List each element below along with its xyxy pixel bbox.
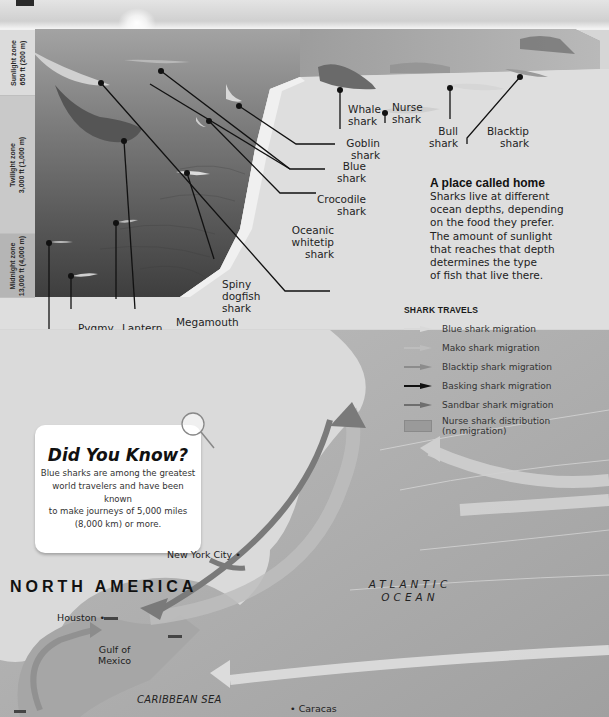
intro-title: A place called home [430, 176, 605, 190]
label-crocodile-shark: Crocodileshark [316, 193, 366, 217]
sky-band [0, 0, 609, 30]
intro-text-block: A place called home Sharks live at diffe… [430, 176, 605, 282]
magnifying-glass-icon [178, 410, 218, 450]
intro-body: Sharks live at different ocean depths, d… [430, 190, 605, 282]
zone-name: Twilight zone [10, 143, 17, 187]
legend-item-basking: Basking shark migration [404, 376, 604, 395]
arrow-icon [404, 400, 432, 410]
city-new-york: New York City • [167, 549, 241, 560]
label-atlantic-ocean: ATLANTICOCEAN [360, 578, 460, 604]
label-whale-shark: Whaleshark [348, 103, 381, 127]
depth-zones-bar: Sunlight zone650 ft (200 m) Twilight zon… [0, 0, 35, 328]
label-caribbean-sea: CARIBBEAN SEA [137, 694, 222, 705]
arrow-icon [404, 381, 432, 391]
arrow-icon [404, 324, 432, 334]
label-goblin-shark: Goblinshark [338, 137, 380, 161]
zone-depth: 650 ft (200 m) [19, 40, 26, 85]
did-you-know-title: Did You Know? [35, 445, 201, 465]
zone-name: Sunlight zone [10, 40, 17, 86]
city-caracas: • Caracas [290, 703, 337, 714]
legend-item-blue: Blue shark migration [404, 319, 604, 338]
zone-midnight: Midnight zone13,000 ft (4,000 m) [0, 234, 35, 298]
label-spiny-dogfish-shark: Spinydogfishshark [222, 278, 261, 314]
arrow-icon [404, 362, 432, 372]
area-swatch-icon [404, 420, 432, 432]
legend-item-nurse: Nurse shark distribution(no migration) [404, 414, 604, 438]
did-you-know-body: Blue sharks are among the greatest world… [35, 467, 201, 531]
did-you-know-box: Did You Know? Blue sharks are among the … [35, 425, 201, 553]
label-blue-shark: Blueshark [330, 160, 366, 184]
label-oceanic-whitetip-shark: Oceanicwhitetipshark [276, 224, 334, 260]
label-nurse-shark: Nurseshark [392, 101, 423, 125]
label-gulf-of-mexico: Gulf ofMexico [98, 644, 131, 666]
label-bull-shark: Bullshark [428, 125, 458, 149]
label-blacktip-shark: Blacktipshark [471, 125, 529, 149]
zone-twilight: Twilight zone3,000 ft (1,000 m) [0, 96, 35, 234]
shark-travels-legend: SHARK TRAVELS Blue shark migration Mako … [404, 305, 604, 438]
zone-name: Midnight zone [10, 242, 17, 289]
legend-item-blacktip: Blacktip shark migration [404, 357, 604, 376]
legend-item-sandbar: Sandbar shark migration [404, 395, 604, 414]
page-number-tab [16, 0, 34, 6]
arrow-icon [404, 343, 432, 353]
shark-infographic-page: Sunlight zone650 ft (200 m) Twilight zon… [0, 0, 609, 717]
zone-sunlight: Sunlight zone650 ft (200 m) [0, 30, 35, 96]
legend-item-mako: Mako shark migration [404, 338, 604, 357]
city-houston: Houston • [57, 612, 105, 623]
label-north-america: NORTH AMERICA [10, 578, 197, 596]
zone-depth: 3,000 ft (1,000 m) [19, 136, 26, 192]
legend-title: SHARK TRAVELS [404, 305, 604, 315]
zone-depth: 13,000 ft (4,000 m) [19, 235, 26, 295]
